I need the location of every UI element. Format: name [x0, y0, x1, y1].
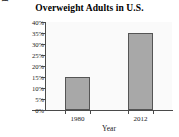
y-axis-tick-mark — [41, 110, 45, 111]
y-axis-tick-mark — [41, 88, 45, 89]
y-axis-line — [45, 22, 46, 111]
y-axis-tick-mark — [41, 77, 45, 78]
bar — [65, 77, 90, 110]
x-axis-line — [32, 110, 173, 111]
y-axis-tick-mark — [41, 33, 45, 34]
x-axis-title: Year — [46, 124, 172, 134]
y-axis-tick-label: 0% — [0, 106, 44, 115]
y-axis-tick-mark — [41, 66, 45, 67]
y-axis-tick-label: 5% — [0, 95, 44, 104]
y-axis-tick-label: 20% — [0, 62, 44, 71]
x-axis-tick-label: 1980 — [46, 114, 109, 124]
y-axis-tick-mark — [41, 55, 45, 56]
y-axis-tick-label: 25% — [0, 51, 44, 60]
chart-title: Overweight Adults in U.S. — [0, 3, 179, 14]
y-axis-tick-mark — [41, 44, 45, 45]
y-axis-tick-label: 15% — [0, 73, 44, 82]
y-axis-tick-label: 40% — [0, 18, 44, 27]
y-axis-tick-label: 30% — [0, 40, 44, 49]
bar-chart-figure: Overweight Adults in U.S. Percent 0%5%10… — [0, 0, 179, 137]
y-axis-tick-mark — [41, 22, 45, 23]
y-axis-tick-label: 35% — [0, 29, 44, 38]
bar — [128, 33, 153, 110]
x-axis-tick-label: 2012 — [109, 114, 172, 124]
y-axis-tick-label: 10% — [0, 84, 44, 93]
y-axis-tick-mark — [41, 99, 45, 100]
